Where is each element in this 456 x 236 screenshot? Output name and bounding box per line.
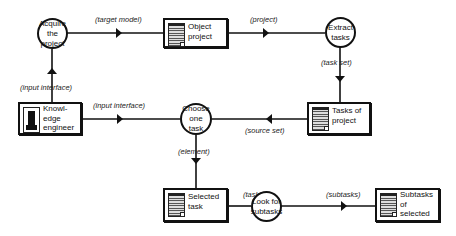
flow-label-subtasks: (subtasks) (326, 190, 361, 199)
person-icon (23, 107, 40, 133)
document-grid-icon (168, 193, 185, 217)
store-knowledge-engineer[interactable]: Knowl- edge engineer (18, 102, 82, 135)
flow-label-target-model: (target model) (95, 15, 142, 24)
store-label: Subtasks of selected (400, 190, 430, 219)
arrow-right-icon (263, 28, 269, 38)
flow-label-element: (element) (178, 147, 210, 156)
process-extract-tasks[interactable]: Extract tasks (325, 17, 356, 48)
process-label: Extract tasks (327, 23, 354, 43)
process-label: Look for subtasks (251, 197, 283, 217)
store-tasks-of-project[interactable]: Tasks of project (307, 102, 371, 135)
document-grid-icon (380, 193, 397, 217)
flow-label-input-interface-right: (input interface) (93, 101, 145, 110)
store-label: Tasks of project (332, 104, 369, 126)
arrow-left-icon (266, 114, 272, 124)
store-label: Selected task (188, 190, 224, 212)
document-grid-icon (168, 23, 185, 47)
arrow-up-icon (47, 68, 57, 74)
arrow-right-icon (116, 28, 122, 38)
arrow-right-icon (117, 114, 123, 124)
store-label: Object project (188, 20, 224, 42)
process-label: Acquire the project (39, 19, 66, 49)
store-object-project[interactable]: Object project (163, 18, 228, 48)
flow-label-source-set: (source set) (245, 126, 285, 135)
store-label-line: Knowl- (43, 104, 74, 114)
flow-label-project: (project) (250, 15, 278, 24)
document-grid-icon (312, 107, 329, 131)
store-label-line: engineer (43, 123, 74, 133)
process-look-for-subtasks[interactable]: Look for subtasks (251, 191, 282, 222)
store-selected-task[interactable]: Selected task (163, 188, 228, 222)
process-label: Choose one task (182, 104, 210, 134)
arrow-down-icon (191, 158, 201, 164)
flow-label-task-set: (task set) (321, 58, 352, 67)
arrow-right-icon (341, 201, 347, 211)
process-acquire-the-project[interactable]: Acquire the project (37, 18, 68, 49)
store-label: Knowl- edge engineer (43, 104, 74, 133)
store-label-line: edge (43, 114, 74, 124)
process-choose-one-task[interactable]: Choose one task (180, 103, 212, 135)
store-subtasks-of-selected[interactable]: Subtasks of selected (375, 188, 440, 222)
flow-label-input-interface-up: (input interface) (20, 83, 72, 92)
arrow-down-icon (335, 76, 345, 82)
